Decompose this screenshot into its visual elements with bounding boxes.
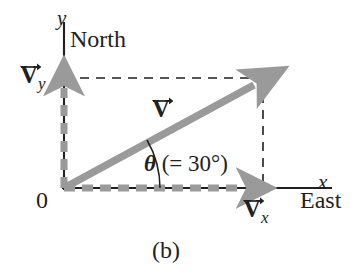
vector-decomposition-figure: y North x East 0 (b) θ (= 30°) V V y xyxy=(0,0,364,275)
east-direction-label: East xyxy=(300,188,341,212)
figure-canvas xyxy=(0,0,364,275)
north-direction-label: North xyxy=(70,27,126,51)
vector-vx-symbol: V xyxy=(243,196,261,221)
figure-caption: (b) xyxy=(152,238,180,262)
vector-vy-subscript: y xyxy=(38,74,46,93)
vector-vx-subscript: x xyxy=(261,208,269,227)
angle-label: θ (= 30°) xyxy=(144,152,228,175)
vector-v-symbol: V xyxy=(152,96,170,121)
vector-vx-label: V x xyxy=(243,196,269,221)
y-axis-label: y xyxy=(57,8,66,29)
vector-vy-symbol: V xyxy=(20,62,38,87)
vector-vy-label: V y xyxy=(20,62,46,87)
vector-v-label: V xyxy=(152,96,170,121)
theta-symbol: θ xyxy=(144,151,156,176)
theta-value-expression: (= 30°) xyxy=(156,151,228,176)
origin-label: 0 xyxy=(36,188,48,212)
